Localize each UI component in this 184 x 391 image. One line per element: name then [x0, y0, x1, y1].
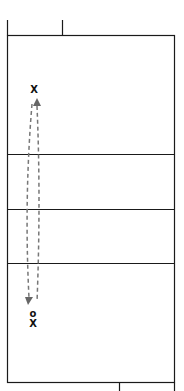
- player-bottom-x: X: [29, 318, 37, 329]
- arrow-head-up-icon: [33, 98, 41, 106]
- player-top-x: X: [30, 84, 38, 95]
- court-diagram: X o X: [0, 0, 184, 391]
- arrow-head-down-icon: [25, 297, 33, 305]
- movement-path-up: [37, 106, 39, 302]
- movement-path-down: [27, 104, 32, 298]
